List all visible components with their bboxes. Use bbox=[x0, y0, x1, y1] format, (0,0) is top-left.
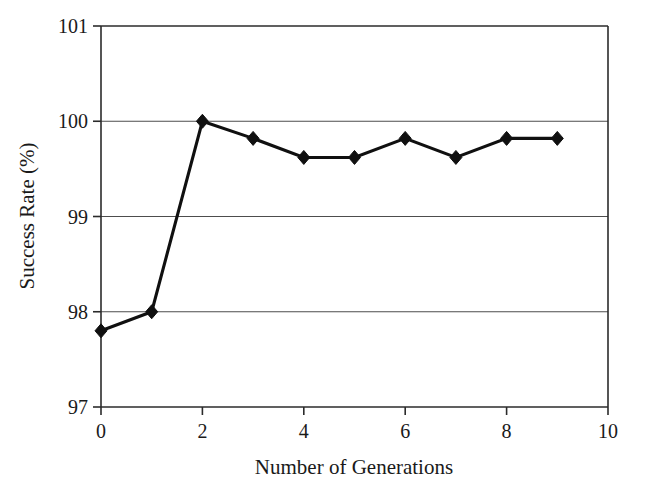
x-tick-label-10: 10 bbox=[598, 420, 618, 442]
y-tick-label-97: 97 bbox=[68, 396, 88, 418]
y-tick-label-101: 101 bbox=[58, 15, 88, 37]
y-tick-label-99: 99 bbox=[68, 206, 88, 228]
y-tick-label-100: 100 bbox=[58, 110, 88, 132]
y-axis-title: Success Rate (%) bbox=[15, 143, 39, 290]
line-chart: 101 100 99 98 97 0 2 4 6 8 10 Number of … bbox=[0, 0, 646, 489]
x-tick-label-4: 4 bbox=[299, 420, 309, 442]
x-axis-ticks bbox=[101, 407, 608, 415]
x-tick-label-0: 0 bbox=[96, 420, 106, 442]
y-tick-label-98: 98 bbox=[68, 301, 88, 323]
x-tick-label-6: 6 bbox=[400, 420, 410, 442]
y-axis-ticks bbox=[93, 26, 101, 407]
y-tick-labels: 101 100 99 98 97 bbox=[58, 15, 88, 418]
x-tick-label-2: 2 bbox=[197, 420, 207, 442]
x-axis-title: Number of Generations bbox=[255, 455, 453, 479]
chart-figure: 101 100 99 98 97 0 2 4 6 8 10 Number of … bbox=[0, 0, 646, 489]
x-tick-labels: 0 2 4 6 8 10 bbox=[96, 420, 618, 442]
x-tick-label-8: 8 bbox=[502, 420, 512, 442]
